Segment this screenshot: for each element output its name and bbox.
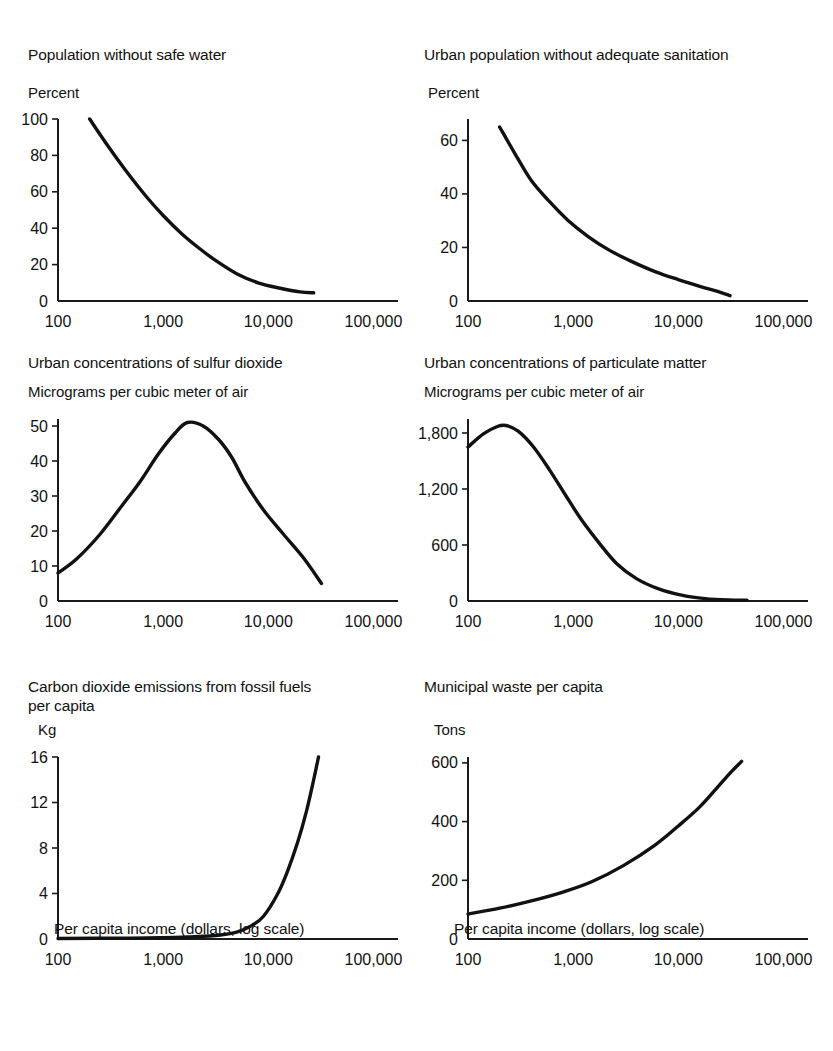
chart-svg-3: 06001,2001,8001001,00010,000100,000	[410, 405, 810, 645]
y-tick-label: 4	[39, 885, 48, 902]
x-tick-label: 100,000	[345, 613, 403, 630]
y-tick-label: 40	[30, 453, 48, 470]
panel-sulfur-dioxide: Urban concentrations of sulfur dioxide M…	[0, 345, 410, 655]
plot-area: 02004006001001,00010,000100,000	[410, 743, 810, 983]
panel-title: Carbon dioxide emissions from fossil fue…	[28, 677, 311, 715]
panel-title: Urban concentrations of sulfur dioxide	[28, 353, 283, 372]
y-tick-label: 0	[449, 293, 458, 310]
x-axis-caption: Per capita income (dollars, log scale)	[54, 920, 304, 938]
y-tick-label: 400	[431, 813, 458, 830]
y-tick-label: 20	[440, 239, 458, 256]
chart-svg-4: 04812161001,00010,000100,000	[0, 743, 400, 983]
x-axis-caption: Per capita income (dollars, log scale)	[454, 920, 704, 938]
x-tick-label: 10,000	[244, 951, 293, 968]
plot-area: 010203040501001,00010,000100,000	[0, 405, 400, 645]
y-tick-label: 0	[449, 593, 458, 610]
x-tick-label: 10,000	[244, 313, 293, 330]
data-curve	[90, 119, 314, 293]
panel-municipal-waste: Municipal waste per capita Tons 02004006…	[410, 655, 833, 1051]
y-tick-label: 20	[30, 523, 48, 540]
x-tick-label: 100	[455, 951, 482, 968]
y-unit-label: Micrograms per cubic meter of air	[28, 383, 248, 400]
data-curve	[58, 422, 321, 583]
y-tick-label: 200	[431, 872, 458, 889]
panel-title: Population without safe water	[28, 45, 226, 64]
x-tick-label: 1,000	[143, 951, 183, 968]
plot-area: 0204060801001001,00010,000100,000	[0, 105, 400, 345]
chart-svg-1: 02040601001,00010,000100,000	[410, 105, 810, 345]
panel-title: Urban population without adequate sanita…	[424, 45, 729, 64]
y-tick-label: 40	[440, 185, 458, 202]
y-unit-label: Percent	[28, 84, 79, 101]
data-curve	[468, 761, 742, 914]
figure-panel-grid: Population without safe water Percent 02…	[0, 0, 833, 1051]
x-tick-label: 100	[45, 951, 72, 968]
x-tick-label: 1,000	[143, 613, 183, 630]
x-tick-label: 1,000	[553, 951, 593, 968]
x-tick-label: 100,000	[345, 951, 403, 968]
y-tick-label: 16	[30, 749, 48, 766]
y-tick-label: 60	[440, 132, 458, 149]
y-tick-label: 0	[39, 593, 48, 610]
y-tick-label: 10	[30, 558, 48, 575]
x-tick-label: 100,000	[345, 313, 403, 330]
x-tick-label: 1,000	[143, 313, 183, 330]
y-unit-label: Micrograms per cubic meter of air	[424, 383, 644, 400]
y-tick-label: 8	[39, 840, 48, 857]
y-tick-label: 600	[431, 754, 458, 771]
y-tick-label: 1,200	[418, 481, 458, 498]
y-tick-label: 50	[30, 418, 48, 435]
y-tick-label: 60	[30, 183, 48, 200]
plot-area: 06001,2001,8001001,00010,000100,000	[410, 405, 810, 645]
x-tick-label: 1,000	[553, 313, 593, 330]
y-tick-label: 80	[30, 147, 48, 164]
x-tick-label: 10,000	[244, 613, 293, 630]
data-curve	[468, 425, 747, 600]
x-tick-label: 1,000	[553, 613, 593, 630]
x-tick-label: 10,000	[654, 613, 703, 630]
panel-safe-water: Population without safe water Percent 02…	[0, 0, 410, 345]
panel-particulate-matter: Urban concentrations of particulate matt…	[410, 345, 833, 655]
y-tick-label: 0	[39, 293, 48, 310]
panel-title: Urban concentrations of particulate matt…	[424, 353, 706, 372]
y-tick-label: 100	[21, 111, 48, 128]
y-tick-label: 1,800	[418, 425, 458, 442]
y-tick-label: 30	[30, 488, 48, 505]
x-tick-label: 10,000	[654, 313, 703, 330]
x-tick-label: 100,000	[755, 951, 813, 968]
x-tick-label: 100	[45, 613, 72, 630]
chart-svg-5: 02004006001001,00010,000100,000	[410, 743, 810, 983]
data-curve	[58, 757, 319, 938]
plot-area: 02040601001,00010,000100,000	[410, 105, 810, 345]
x-tick-label: 100	[455, 613, 482, 630]
x-tick-label: 100,000	[755, 613, 813, 630]
x-tick-label: 100	[455, 313, 482, 330]
data-curve	[500, 127, 730, 296]
plot-area: 04812161001,00010,000100,000	[0, 743, 400, 983]
y-tick-label: 12	[30, 794, 48, 811]
panel-title: Municipal waste per capita	[424, 677, 603, 696]
y-unit-label: Percent	[428, 84, 479, 101]
chart-svg-2: 010203040501001,00010,000100,000	[0, 405, 400, 645]
y-unit-label: Tons	[434, 721, 465, 738]
x-tick-label: 10,000	[654, 951, 703, 968]
chart-svg-0: 0204060801001001,00010,000100,000	[0, 105, 400, 345]
y-tick-label: 0	[39, 931, 48, 948]
y-tick-label: 20	[30, 256, 48, 273]
x-tick-label: 100	[45, 313, 72, 330]
y-tick-label: 600	[431, 537, 458, 554]
y-unit-label: Kg	[38, 721, 56, 738]
y-tick-label: 40	[30, 220, 48, 237]
x-tick-label: 100,000	[755, 313, 813, 330]
panel-sanitation: Urban population without adequate sanita…	[410, 0, 833, 345]
panel-carbon-dioxide: Carbon dioxide emissions from fossil fue…	[0, 655, 410, 1051]
